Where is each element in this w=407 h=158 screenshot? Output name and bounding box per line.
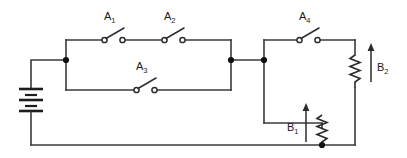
node-left-junction — [63, 57, 69, 63]
switch-a4-contact-right[interactable] — [315, 37, 320, 42]
battery-branch — [19, 60, 66, 145]
switch-a3-contact-right[interactable] — [152, 87, 157, 92]
switch-a1-label: A1 — [104, 10, 116, 25]
resistor-b1: B1 — [287, 103, 327, 145]
node-bottom-junction — [319, 142, 325, 148]
switch-a2-contact-right[interactable] — [180, 37, 185, 42]
resistor-b2-label: B2 — [377, 61, 389, 76]
switch-a4-label: A4 — [299, 10, 311, 25]
battery-symbol — [19, 89, 43, 111]
switch-a1[interactable]: A1 — [102, 10, 125, 43]
switch-a3-label: A3 — [136, 60, 148, 75]
circuit-diagram: A1 A2 A3 — [0, 0, 407, 158]
circuit-schematic-canvas: A1 A2 A3 — [0, 0, 407, 158]
node-mid-junction — [228, 57, 234, 63]
resistor-b2-zigzag — [350, 55, 360, 88]
switch-a3[interactable]: A3 — [134, 60, 157, 93]
wire-battery-top — [31, 60, 66, 88]
switch-a4[interactable]: A4 — [297, 10, 320, 43]
switch-a2-label: A2 — [164, 10, 176, 25]
resistor-b1-arrow-head — [303, 103, 310, 111]
resistor-b2-arrow-head — [368, 43, 375, 51]
node-right-junction — [261, 57, 267, 63]
resistor-b1-zigzag — [317, 115, 327, 145]
switch-a2[interactable]: A2 — [162, 10, 185, 43]
switch-a1-contact-right[interactable] — [120, 37, 125, 42]
right-network — [264, 40, 355, 145]
